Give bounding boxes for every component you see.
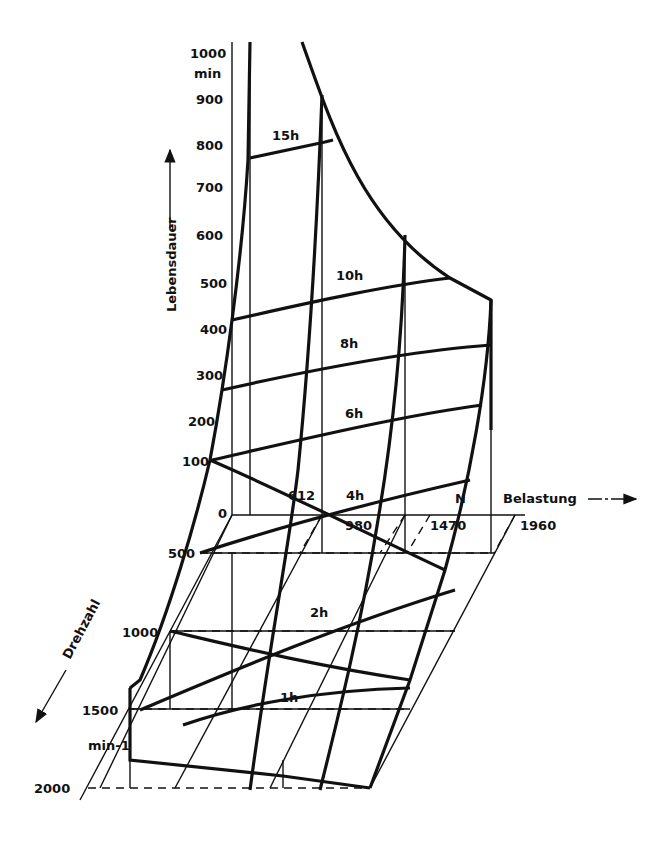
label-10h: 10h <box>336 268 363 283</box>
tick-900: 900 <box>196 92 223 107</box>
lifetime-tick-labels: 1000 min 900 800 700 600 500 400 300 200… <box>182 46 227 521</box>
tick-1000: 1000 <box>190 46 226 61</box>
lifetime-unit: min <box>194 66 221 81</box>
tick-400: 400 <box>200 322 227 337</box>
tick-1960: 1960 <box>520 518 556 533</box>
label-1h: 1h <box>280 690 298 705</box>
tick-600: 600 <box>196 228 223 243</box>
svg-text:Lebensdauer: Lebensdauer <box>164 217 179 312</box>
floor-grid <box>100 515 515 788</box>
label-15h: 15h <box>272 128 299 143</box>
tick-500: 500 <box>168 546 195 561</box>
label-8h: 8h <box>340 336 358 351</box>
tick-0: 0 <box>218 506 227 521</box>
lifetime-surface-diagram: 1000 min 900 800 700 600 500 400 300 200… <box>0 0 668 842</box>
tick-1470: 1470 <box>430 518 466 533</box>
label-2h: 2h <box>310 605 328 620</box>
tick-1500: 1500 <box>82 703 118 718</box>
lifetime-axis: 1000 min 900 800 700 600 500 400 300 200… <box>164 42 232 521</box>
tick-500: 500 <box>200 276 227 291</box>
svg-text:Drehzahl: Drehzahl <box>59 597 103 662</box>
surface-verticals <box>130 42 491 788</box>
tick-300: 300 <box>196 368 223 383</box>
lifetime-axis-title: Lebensdauer <box>164 150 179 312</box>
label-4h: 4h <box>346 488 364 503</box>
label-6h: 6h <box>345 406 363 421</box>
tick-800: 800 <box>196 138 223 153</box>
tick-100: 100 <box>182 454 209 469</box>
tick-1000: 1000 <box>122 625 158 640</box>
surface-curves <box>130 42 491 790</box>
tick-700: 700 <box>196 180 223 195</box>
load-axis-title: Belastung <box>503 491 577 506</box>
tick-2000: 2000 <box>34 781 70 796</box>
tick-200: 200 <box>188 414 215 429</box>
down-left-arrow-icon <box>36 670 66 722</box>
